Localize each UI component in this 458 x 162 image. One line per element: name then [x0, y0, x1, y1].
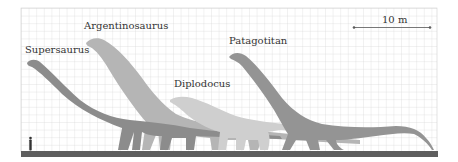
human-silhouette — [29, 137, 32, 151]
label-diplodocus: Diplodocus — [174, 79, 230, 89]
label-argentinosaurus: Argentinosaurus — [84, 21, 168, 31]
size-comparison-figure: 10 m Supersaurus Argentinosaurus Diplodo… — [0, 0, 458, 162]
label-patagotitan: Patagotitan — [229, 36, 287, 46]
ground-bar — [21, 151, 438, 157]
scale-bar-label: 10 m — [382, 15, 407, 25]
label-supersaurus: Supersaurus — [25, 45, 89, 55]
